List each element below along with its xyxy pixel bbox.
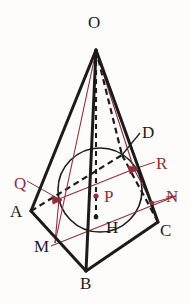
point-P-dot	[93, 193, 98, 198]
edge-BC	[86, 222, 158, 271]
point-N-dot	[150, 201, 154, 205]
geometry-figure: O D R Q P N A H C M B	[0, 0, 191, 304]
geometry-canvas	[0, 0, 191, 304]
label-C: C	[160, 222, 171, 239]
label-P: P	[104, 188, 113, 205]
point-Q-dot	[57, 198, 62, 203]
inscribed-circle	[58, 148, 142, 232]
label-D: D	[142, 124, 154, 141]
edge-OB	[86, 50, 96, 271]
label-A: A	[10, 203, 22, 220]
edge-OD-dashed	[96, 50, 122, 155]
label-M: M	[34, 238, 49, 255]
edge-OA	[31, 50, 96, 211]
label-B: B	[80, 275, 91, 292]
label-H: H	[106, 219, 118, 236]
label-N: N	[166, 188, 178, 205]
point-R-dot	[131, 166, 136, 171]
label-R: R	[156, 155, 167, 172]
label-Q: Q	[14, 175, 26, 192]
label-O: O	[88, 14, 100, 31]
point-H-dot	[94, 215, 99, 220]
edge-DC-dashed	[122, 155, 158, 222]
